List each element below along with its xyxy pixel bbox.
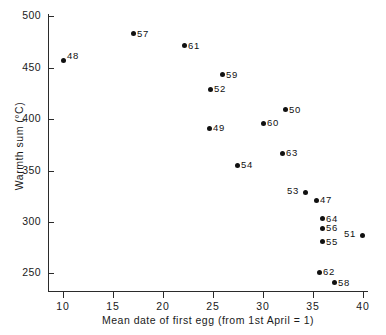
data-point-label: 62 [323,266,335,277]
y-axis-tick-label: 450 [7,61,41,73]
x-axis-tick-label: 20 [148,300,178,312]
y-axis-title: Warmth sum (°C) [13,81,25,211]
data-point [280,151,285,156]
data-point-label: 56 [326,222,338,233]
data-point-label: 50 [289,104,301,115]
data-point-label: 54 [241,159,253,170]
x-axis-title: Mean date of first egg (from 1st April =… [48,314,368,326]
data-point-label: 47 [320,194,332,205]
x-axis-tick [213,292,214,298]
data-point-label: 52 [214,83,226,94]
plot-data-area [48,14,368,292]
scatter-plot-figure: 250300350400450500 10152025303540 Mean d… [0,0,386,335]
data-point-label: 48 [67,50,79,61]
data-point [360,233,365,238]
data-point-label: 57 [137,28,149,39]
data-point [207,126,212,131]
x-axis-tick-label: 40 [348,300,378,312]
data-point-label: 61 [188,40,200,51]
data-point-label: 55 [326,236,338,247]
data-point [332,280,337,285]
x-axis-tick [363,292,364,298]
data-point-label: 51 [344,228,356,239]
x-axis-tick-label: 15 [98,300,128,312]
y-axis-tick-label: 250 [7,266,41,278]
data-point [314,198,319,203]
data-point-label: 63 [286,147,298,158]
data-point [208,87,213,92]
x-axis-tick-label: 25 [198,300,228,312]
data-point [320,216,325,221]
data-point [303,190,308,195]
data-point-label: 60 [267,117,279,128]
data-point [317,270,322,275]
x-axis-tick [63,292,64,298]
data-point [220,72,225,77]
data-point [131,31,136,36]
x-axis-tick [113,292,114,298]
y-axis-tick-label: 300 [7,215,41,227]
x-axis-tick-label: 35 [298,300,328,312]
data-point [283,107,288,112]
x-axis-tick [163,292,164,298]
data-point [235,163,240,168]
data-point-label: 58 [338,277,350,288]
data-point-label: 53 [287,185,299,196]
x-axis-tick-label: 30 [248,300,278,312]
data-point-label: 49 [213,122,225,133]
data-point [61,58,66,63]
data-point-label: 59 [226,69,238,80]
data-point [261,121,266,126]
x-axis-tick [263,292,264,298]
y-axis-tick-label: 500 [7,9,41,21]
data-point [182,43,187,48]
x-axis-tick-label: 10 [48,300,78,312]
data-point [320,239,325,244]
x-axis-tick [313,292,314,298]
data-point [320,226,325,231]
